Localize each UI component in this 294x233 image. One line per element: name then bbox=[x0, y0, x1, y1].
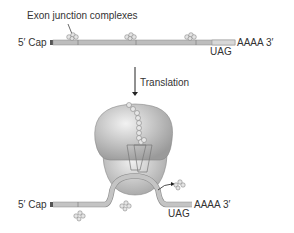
ejc-pointer-line bbox=[68, 24, 72, 34]
ejc-complex bbox=[125, 33, 137, 41]
ejc-displaced bbox=[174, 180, 185, 190]
ejc-label: Exon junction complexes bbox=[27, 11, 138, 21]
cap-marker bbox=[50, 40, 53, 45]
cap-label-top: 5′ Cap bbox=[18, 38, 47, 48]
stop-codon-top: UAG bbox=[210, 47, 232, 57]
mrna-strand-top bbox=[53, 40, 235, 45]
tail-label-top: AAAA 3′ bbox=[237, 38, 273, 48]
ejc-displaced bbox=[74, 211, 85, 221]
ejc-displaced bbox=[120, 201, 131, 211]
tail-label-bottom: AAAA 3′ bbox=[194, 200, 230, 210]
utr-region bbox=[212, 40, 235, 45]
translation-label: Translation bbox=[140, 78, 189, 88]
cap-label-bottom: 5′ Cap bbox=[18, 200, 47, 210]
ribosome-large-subunit bbox=[95, 104, 173, 160]
arrow-head-icon bbox=[132, 92, 138, 96]
ejc-complex bbox=[67, 33, 79, 41]
stop-codon-bottom: UAG bbox=[168, 209, 190, 219]
ejc-complex bbox=[185, 33, 197, 41]
cap-marker-bottom bbox=[50, 202, 53, 207]
